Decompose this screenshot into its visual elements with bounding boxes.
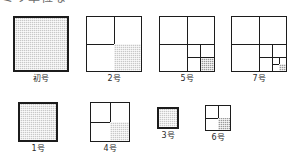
figure-3go: 3号 (157, 107, 179, 129)
caption-7go: 7号 (231, 74, 287, 84)
square-6go (205, 105, 231, 131)
figure-4go: 4号 (90, 102, 130, 142)
caption-2go: 2号 (86, 74, 142, 84)
caption-5go: 5号 (159, 74, 215, 84)
figure-7go: 7号 (231, 16, 287, 72)
subquadrant-level-1 (259, 44, 286, 71)
figure-1go: 1号 (18, 102, 58, 142)
square-1go (18, 102, 58, 142)
figure-5go: 5号 (159, 16, 215, 72)
figure-6go: 6号 (205, 105, 231, 131)
square-5go (159, 16, 215, 72)
square-4go (90, 102, 130, 142)
subquadrant-level-1 (187, 44, 214, 71)
caption-4go: 4号 (90, 144, 130, 154)
clipped-heading: ミリ単位な (2, 0, 122, 7)
square-7go (231, 16, 287, 72)
figure-2go: 2号 (86, 16, 142, 72)
figure-shogo: 初号 (13, 16, 69, 72)
caption-shogo: 初号 (13, 74, 69, 84)
caption-1go: 1号 (18, 144, 58, 154)
clipped-heading-text: ミリ単位な (2, 0, 67, 5)
shaded-cell-5go (201, 58, 215, 72)
shaded-cell-2go (114, 44, 141, 71)
square-3go (157, 107, 179, 129)
subquadrant-level-2 (273, 58, 287, 72)
caption-6go: 6号 (202, 133, 234, 143)
shaded-cell-6go (218, 118, 230, 130)
caption-3go: 3号 (152, 131, 184, 141)
shaded-cell-7go (279, 64, 286, 71)
square-2go (86, 16, 142, 72)
square-shogo (13, 16, 69, 72)
shaded-cell-4go (110, 122, 129, 141)
